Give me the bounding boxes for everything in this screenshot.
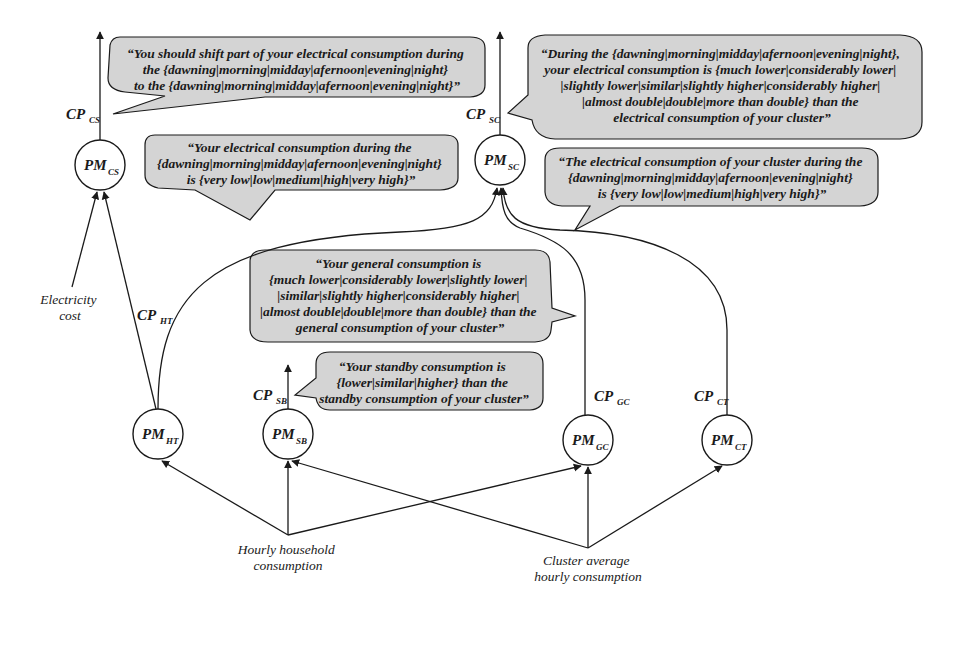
svg-text:“Your standby consumption is: “Your standby consumption is {lower|simi… bbox=[318, 359, 529, 406]
node-pm-gc: PM GC bbox=[563, 415, 613, 465]
callout-own-line-3: is {very low|low|medium|high|very high}” bbox=[187, 172, 416, 187]
input-hourly-household-line-2: consumption bbox=[254, 558, 323, 573]
callout-shift-line-3: to the {dawning|morning|midday|afernoon|… bbox=[134, 78, 460, 93]
callout-standby-line-1: “Your standby consumption is bbox=[339, 359, 506, 374]
callout-compare-line-1: “During the {dawning|morning|midday|afer… bbox=[541, 46, 900, 61]
callout-general-line-2: {much lower|considerably lower|slightly … bbox=[269, 272, 528, 287]
edge-hh-to-gc bbox=[288, 466, 581, 535]
input-cluster-average-line-1: Cluster average bbox=[543, 553, 630, 568]
node-pm-ht-label: PM bbox=[142, 426, 165, 442]
input-hourly-household: Hourly household consumption bbox=[237, 542, 339, 573]
callout-standby-line-3: standby consumption of your cluster” bbox=[318, 391, 529, 406]
input-electricity-cost: Electricity cost bbox=[39, 292, 100, 323]
node-pm-ct-label: PM bbox=[711, 432, 734, 448]
cp-ct-sub: CT bbox=[717, 397, 729, 407]
callout-cluster-line-2: {dawning|morning|midday|afernoon|evening… bbox=[568, 170, 853, 185]
input-hourly-household-line-1: Hourly household bbox=[237, 542, 335, 557]
edge-label-cp-ht: CP HT bbox=[137, 307, 173, 326]
callout-cluster-line-3: is {very low|low|medium|high|very high}” bbox=[598, 186, 827, 201]
callout-own-line-1: “Your electrical consumption during the bbox=[187, 140, 411, 155]
cp-ct-main: CP bbox=[694, 388, 714, 404]
node-pm-cs-label: PM bbox=[84, 157, 107, 173]
callout-shift-line-1: “You should shift part of your electrica… bbox=[127, 46, 464, 61]
callout-own-level: “Your electrical consumption during the … bbox=[145, 135, 458, 220]
cp-cs-main: CP bbox=[66, 106, 86, 122]
node-pm-cs-sub: CS bbox=[108, 167, 119, 177]
callout-standby-line-2: {lower|similar|higher} than the bbox=[337, 375, 508, 390]
edge-label-cp-ct: CP CT bbox=[694, 388, 729, 407]
callout-shift: “You should shift part of your electrica… bbox=[108, 37, 485, 114]
callout-general-line-5: general consumption of your cluster” bbox=[295, 320, 505, 335]
callout-general-line-4: |almost double|double|more than double} … bbox=[260, 304, 537, 319]
edge-label-cp-sc: CP SC bbox=[466, 106, 501, 125]
edge-ca-to-ct bbox=[588, 466, 722, 548]
node-pm-cs: PM CS bbox=[75, 140, 125, 190]
edge-label-cp-cs: CP CS bbox=[66, 106, 100, 125]
cp-sc-sub: SC bbox=[489, 115, 501, 125]
cp-sc-main: CP bbox=[466, 106, 486, 122]
node-pm-ht: PM HT bbox=[133, 409, 183, 459]
node-pm-sc-sub: SC bbox=[508, 162, 520, 172]
svg-text:“You should shift part of your: “You should shift part of your electrica… bbox=[127, 46, 467, 93]
cp-gc-sub: GC bbox=[617, 397, 630, 407]
node-pm-sb-sub: SB bbox=[296, 436, 307, 446]
input-electricity-cost-line-2: cost bbox=[59, 308, 82, 323]
cp-sb-main: CP bbox=[253, 387, 273, 403]
callout-compare-line-3: |slightly lower|similar|slightly higher|… bbox=[560, 78, 880, 93]
edge-ca-to-sb bbox=[292, 461, 588, 548]
callout-general-line-3: |similar|slightly higher|considerably hi… bbox=[277, 288, 519, 303]
cp-sb-sub: SB bbox=[276, 396, 287, 406]
node-pm-ct-sub: CT bbox=[735, 442, 747, 452]
callout-general: “Your general consumption is {much lower… bbox=[250, 250, 575, 342]
callout-own-line-2: {dawning|morning|midday|afernoon|evening… bbox=[157, 156, 442, 171]
node-pm-sc: PM SC bbox=[475, 135, 525, 185]
edge-ht-to-cs bbox=[104, 192, 156, 409]
edge-label-cp-gc: CP GC bbox=[594, 388, 630, 407]
svg-text:“The electrical consumption of: “The electrical consumption of your clus… bbox=[558, 154, 866, 201]
cp-cs-sub: CS bbox=[89, 115, 100, 125]
diagram-canvas: “You should shift part of your electrica… bbox=[0, 0, 960, 665]
node-pm-gc-sub: GC bbox=[596, 442, 609, 452]
edge-label-cp-sb: CP SB bbox=[253, 387, 287, 406]
callout-general-line-1: “Your general consumption is bbox=[315, 256, 481, 271]
callout-compare-cluster: “During the {dawning|morning|midday|afer… bbox=[508, 35, 922, 139]
input-electricity-cost-line-1: Electricity bbox=[39, 292, 96, 307]
node-pm-sb-label: PM bbox=[272, 426, 295, 442]
callout-compare-line-5: electrical consumption of your cluster” bbox=[613, 110, 831, 125]
callout-compare-line-2: your electrical consumption is {much low… bbox=[542, 62, 896, 77]
svg-text:“Your electrical consumption d: “Your electrical consumption during the … bbox=[157, 140, 445, 187]
callout-standby: “Your standby consumption is {lower|simi… bbox=[295, 352, 543, 410]
input-cluster-average: Cluster average hourly consumption bbox=[534, 553, 642, 584]
node-pm-sb: PM SB bbox=[263, 409, 313, 459]
input-cluster-average-line-2: hourly consumption bbox=[534, 569, 642, 584]
cp-gc-main: CP bbox=[594, 388, 614, 404]
callout-compare-line-4: |almost double|double|more than double} … bbox=[582, 94, 859, 109]
cp-ht-sub: HT bbox=[159, 316, 173, 326]
node-pm-sc-label: PM bbox=[484, 152, 507, 168]
cp-ht-main: CP bbox=[137, 307, 157, 323]
node-pm-gc-label: PM bbox=[572, 432, 595, 448]
node-pm-ct: PM CT bbox=[702, 415, 752, 465]
callout-shift-line-2: the {dawning|morning|midday|afernoon|eve… bbox=[143, 62, 448, 77]
node-pm-ht-sub: HT bbox=[165, 436, 179, 446]
callout-cluster-level: “The electrical consumption of your clus… bbox=[545, 148, 878, 230]
callout-cluster-line-1: “The electrical consumption of your clus… bbox=[558, 154, 862, 169]
edge-hh-to-ht bbox=[162, 461, 288, 535]
edge-electricity-cost bbox=[72, 192, 97, 287]
